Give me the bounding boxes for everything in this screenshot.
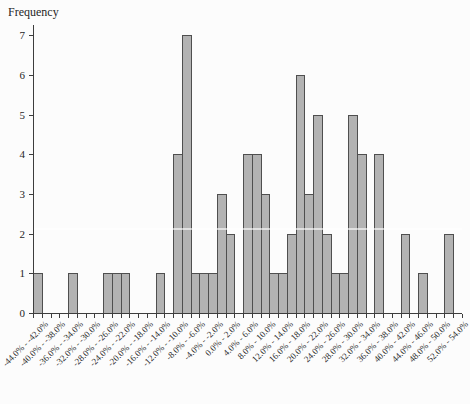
histogram-bar (418, 273, 428, 314)
x-axis-tick (103, 314, 104, 318)
x-axis-tick (453, 314, 454, 318)
x-axis-tick (147, 314, 148, 318)
y-axis-tick (29, 35, 33, 36)
y-axis-tick (29, 154, 33, 155)
x-axis-tick (226, 314, 227, 318)
histogram-bar (357, 154, 367, 314)
x-axis-tick (121, 314, 122, 318)
x-axis-tick (138, 314, 139, 318)
x-axis-tick (243, 314, 244, 318)
y-axis-tick (29, 75, 33, 76)
x-axis-tick (418, 314, 419, 318)
x-axis-tick (331, 314, 332, 318)
x-axis-tick (112, 314, 113, 318)
x-axis-tick (383, 314, 384, 318)
histogram-bar (444, 234, 454, 314)
x-axis-tick (322, 314, 323, 318)
y-axis-tick (29, 115, 33, 116)
x-axis-tick (409, 314, 410, 318)
y-axis-title: Frequency (8, 5, 59, 20)
x-axis-tick (129, 314, 130, 318)
y-axis-line (33, 25, 34, 314)
histogram-bar (156, 273, 166, 314)
y-tick-label: 6 (5, 69, 25, 81)
x-axis-tick (278, 314, 279, 318)
histogram-bar (121, 273, 131, 314)
x-axis-tick (444, 314, 445, 318)
x-axis-tick (199, 314, 200, 318)
x-axis-tick (287, 314, 288, 318)
x-axis-tick (252, 314, 253, 318)
x-axis-tick (304, 314, 305, 318)
y-axis-tick (29, 234, 33, 235)
y-axis-tick (29, 194, 33, 195)
x-axis-tick (173, 314, 174, 318)
x-axis-tick (191, 314, 192, 318)
y-axis-tick (29, 273, 33, 274)
y-axis-tick (29, 313, 33, 314)
x-axis-tick (59, 314, 60, 318)
x-axis-tick (462, 314, 463, 318)
histogram-bar (182, 35, 192, 314)
x-axis-tick (261, 314, 262, 318)
x-axis-tick (51, 314, 52, 318)
y-tick-label: 2 (5, 228, 25, 240)
x-axis-tick (68, 314, 69, 318)
y-tick-label: 3 (5, 188, 25, 200)
histogram-bar (33, 273, 43, 314)
x-axis-tick (269, 314, 270, 318)
x-axis-tick (366, 314, 367, 318)
x-axis-tick (77, 314, 78, 318)
y-tick-label: 0 (5, 307, 25, 319)
x-axis-tick (182, 314, 183, 318)
x-axis-tick (94, 314, 95, 318)
x-axis-tick (339, 314, 340, 318)
x-axis-tick (392, 314, 393, 318)
x-axis-tick (234, 314, 235, 318)
scan-artifact-line (34, 228, 462, 230)
x-axis-tick (427, 314, 428, 318)
x-axis-tick (374, 314, 375, 318)
x-axis-tick (436, 314, 437, 318)
x-axis-tick (42, 314, 43, 318)
x-axis-tick (156, 314, 157, 318)
x-axis-tick (357, 314, 358, 318)
y-tick-label: 7 (5, 29, 25, 41)
x-axis-tick (33, 314, 34, 318)
x-axis-tick (348, 314, 349, 318)
x-axis-tick (164, 314, 165, 318)
x-axis-line (33, 313, 462, 314)
x-axis-tick (217, 314, 218, 318)
histogram-bar (401, 234, 411, 314)
y-tick-label: 1 (5, 267, 25, 279)
x-axis-tick (208, 314, 209, 318)
histogram-bar (374, 154, 384, 314)
x-axis-tick (401, 314, 402, 318)
x-axis-tick (313, 314, 314, 318)
x-axis-tick (86, 314, 87, 318)
y-tick-label: 4 (5, 148, 25, 160)
y-tick-label: 5 (5, 109, 25, 121)
histogram-bar (68, 273, 78, 314)
x-axis-tick (296, 314, 297, 318)
histogram-bar (226, 234, 236, 314)
